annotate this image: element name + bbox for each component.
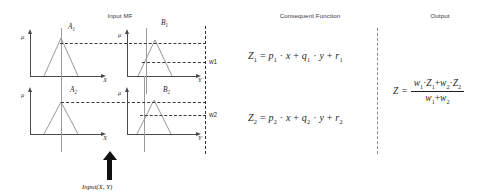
z2-equals: = [260,112,266,123]
z1-dot2: · [313,50,317,61]
plot-b2-mf-label: B2 [163,85,170,95]
header-consequent-function: Consequent Function [250,12,370,19]
plot-a2-mf-label: A2 [70,85,77,95]
z2-dot1: · [280,112,284,123]
anfis-diagram: Input MF Consequent Function Output μ X … [0,0,495,196]
z1-r-sub: 1 [339,56,342,63]
plot-b1-mf-label: B1 [161,18,168,28]
z1-y: y [319,50,324,61]
z1-x: x [286,50,291,61]
output-numerator: w1·Z1+w2·Z2 [411,78,464,92]
z2-x: x [286,112,291,123]
z1-q-sub: 1 [307,56,310,63]
equation-z1: Z1 = p1 · x + q1 · y + r1 [248,50,343,63]
plot-a1-mf-label: A1 [68,22,75,32]
equation-z2: Z2 = p2 · x + q2 · y + r2 [248,112,343,125]
separator-input-consequent [205,26,206,154]
plot-a1-membership-triangle [18,28,113,80]
header-output: Output [400,12,480,19]
z1-p-sub: 1 [274,56,277,63]
plot-b2-membership-triangle [113,86,208,138]
input-arrow-caption: Input(X, Y) [82,183,112,190]
plot-a2-membership-triangle [18,86,113,138]
separator-consequent-output [377,28,378,154]
plot-b1: μ Y B1 [113,28,208,80]
z1-plus2: + [327,50,333,61]
z2-plus2: + [327,112,333,123]
projection-line-a2-peak [61,102,206,103]
z2-y: y [319,112,324,123]
plot-b1-membership-triangle [113,28,208,80]
output-lhs: Z [393,86,398,96]
plot-b2-input-line [144,76,145,152]
plot-a1: μ X A1 [18,28,113,80]
firing-strength-w1-label: w1 [209,58,217,65]
z2-lhs-sub: 2 [254,118,257,125]
z2-p-sub: 2 [274,118,277,125]
output-num-z2-sub: 2 [458,83,461,90]
input-arrow-head [103,151,117,160]
z2-q-sub: 2 [307,118,310,125]
plot-b1-input-line [146,28,147,94]
projection-line-w1 [142,62,206,63]
z1-lhs-sub: 1 [254,56,257,63]
output-equals: = [401,86,407,96]
plot-b2: μ Y B2 [113,86,208,138]
z2-plus1: + [293,112,299,123]
equation-output: Z = w1·Z1+w2·Z2 w1+w2 [393,78,464,105]
firing-strength-w2-label: w2 [209,111,217,118]
plot-a2: μ X A2 [18,86,113,138]
output-fraction: w1·Z1+w2·Z2 w1+w2 [411,78,464,105]
input-arrow-shaft [107,160,112,180]
z1-equals: = [260,50,266,61]
output-denominator: w1+w2 [422,92,452,105]
plot-a2-input-line [61,76,62,152]
output-den-w2-sub: 2 [446,98,449,105]
z2-r-sub: 2 [339,118,342,125]
projection-line-a1-peak [60,43,206,44]
z1-dot1: · [280,50,284,61]
z1-plus1: + [293,50,299,61]
z2-dot2: · [313,112,317,123]
projection-line-w2 [140,115,206,116]
